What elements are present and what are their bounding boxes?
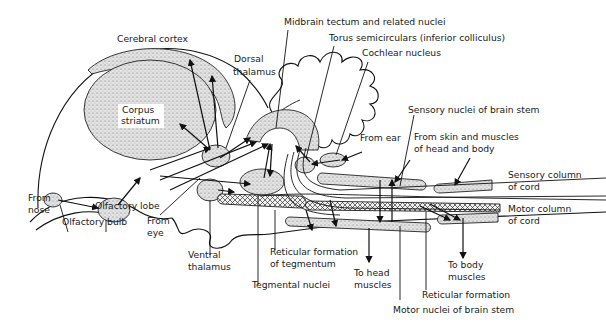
label-sensory-nuclei: Sensory nuclei of brain stem bbox=[408, 104, 540, 115]
label-olfactory-bulb: Olfactory bulb bbox=[62, 216, 127, 227]
label-motor-nuclei: Motor nuclei of brain stem bbox=[393, 304, 514, 315]
label-reticular-tegmentum: Reticular formation bbox=[270, 246, 358, 257]
label-head-body: of head and body bbox=[414, 143, 495, 154]
label-from-skin: From skin and muscles bbox=[414, 131, 519, 142]
motor-nuclei-brainstem bbox=[286, 217, 431, 232]
label-sensory-column-cord: of cord bbox=[508, 181, 540, 192]
label-ventral-thalamus: thalamus bbox=[188, 261, 231, 272]
label-motor-column-cord: of cord bbox=[508, 215, 540, 226]
label-body-muscles: muscles bbox=[448, 271, 486, 282]
label-motor-column: Motor column bbox=[508, 203, 571, 214]
label-midbrain-tectum: Midbrain tectum and related nuclei bbox=[284, 16, 446, 27]
label-to-body: To body bbox=[447, 259, 484, 270]
label-dorsal: Dorsal bbox=[234, 53, 263, 64]
label-from-ear: From ear bbox=[360, 132, 401, 143]
label-tegmental-nuclei: Tegmental nuclei bbox=[251, 279, 330, 290]
label-cerebral-cortex: Cerebral cortex bbox=[117, 33, 189, 44]
label-from-eye-2: eye bbox=[147, 227, 164, 238]
label-ventral: Ventral bbox=[188, 249, 221, 260]
label-cochlear: Cochlear nucleus bbox=[362, 47, 441, 58]
label-thalamus: thalamus bbox=[233, 66, 276, 77]
midbrain-tectum-region bbox=[246, 110, 319, 150]
brain-pathways-diagram: Cerebral cortex Corpus striatum Dorsal t… bbox=[0, 0, 606, 329]
label-reticular-formation: Reticular formation bbox=[422, 289, 510, 300]
label-of-tegmentum: of tegmentum bbox=[270, 258, 336, 269]
sensory-column-cord bbox=[434, 180, 492, 193]
sensory-nuclei-brainstem bbox=[318, 173, 427, 190]
label-corpus: Corpus bbox=[122, 104, 154, 115]
tegmental-nuclei-region bbox=[240, 169, 284, 195]
label-striatum: striatum bbox=[121, 115, 160, 126]
label-to-head: To head bbox=[353, 267, 390, 278]
label-sensory-column: Sensory column bbox=[508, 169, 582, 180]
label-torus: Torus semicirculars (inferior colliculus… bbox=[328, 32, 505, 43]
label-olfactory-lobe: Olfactory lobe bbox=[95, 200, 160, 211]
label-from-nose-2: nose bbox=[28, 204, 50, 215]
label-from-eye-1: From bbox=[147, 215, 170, 226]
label-from-nose-1: From bbox=[28, 192, 51, 203]
label-head-muscles: muscles bbox=[354, 279, 392, 290]
